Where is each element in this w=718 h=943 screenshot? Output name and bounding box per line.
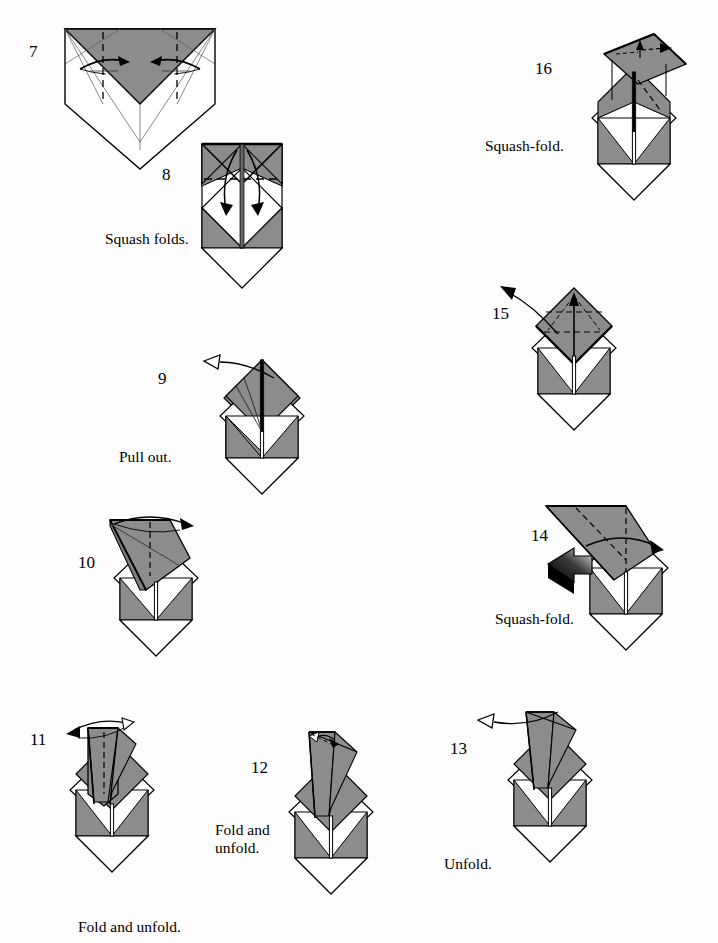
paper-lower-diamond-white <box>590 614 662 650</box>
paper-lower-diamond-white <box>295 858 367 894</box>
center-spine <box>624 572 627 614</box>
paper-lower-diamond-white <box>598 164 670 200</box>
figure-step-9 <box>186 348 326 518</box>
figure-step-15 <box>486 278 636 458</box>
arrowhead-unfold-hollow <box>478 714 494 728</box>
paper-lower-diamond-white <box>226 458 298 494</box>
paper-lower-diamond-white <box>120 620 192 656</box>
step-number-11: 11 <box>30 731 46 748</box>
center-spine <box>110 804 113 836</box>
step-number-8: 8 <box>162 166 171 183</box>
center-spine <box>154 582 157 620</box>
arrowhead-swing-right <box>180 518 194 530</box>
step-number-16: 16 <box>535 60 552 77</box>
figure-step-8 <box>196 140 288 320</box>
paper-lower-diamond-white <box>76 836 148 872</box>
arrowhead-pull-out <box>500 286 516 300</box>
center-spine <box>572 356 575 394</box>
origami-instruction-page: 7 <box>0 0 718 943</box>
arrowhead-pull-out-hollow <box>204 355 220 369</box>
figure-step-13 <box>460 706 600 886</box>
paper-lower-diamond-white <box>202 248 282 288</box>
caption-step-8: Squash folds. <box>105 230 189 248</box>
arrowhead-fold-left <box>66 726 80 738</box>
caption-step-11: Fold and unfold. <box>78 918 181 936</box>
center-spine <box>548 788 551 826</box>
figure-step-11 <box>48 718 178 898</box>
caption-step-16: Squash-fold. <box>485 137 564 155</box>
center-spine <box>329 816 332 858</box>
figure-step-14 <box>530 504 690 684</box>
arrowhead-fold-right-hollow <box>122 718 134 730</box>
caption-step-9: Pull out. <box>119 448 172 466</box>
figure-step-10 <box>88 512 218 682</box>
arrowhead-swing-right <box>650 540 664 554</box>
paper-lower-diamond-white <box>538 394 610 430</box>
paper-lower-diamond-white <box>514 826 586 862</box>
step-number-9: 9 <box>158 370 167 387</box>
figure-step-12 <box>265 728 395 918</box>
figure-step-16 <box>558 36 708 216</box>
step-number-7: 7 <box>29 43 38 60</box>
caption-step-12: Fold and unfold. <box>215 821 270 858</box>
paper-tilted-gray-flap <box>604 34 686 84</box>
